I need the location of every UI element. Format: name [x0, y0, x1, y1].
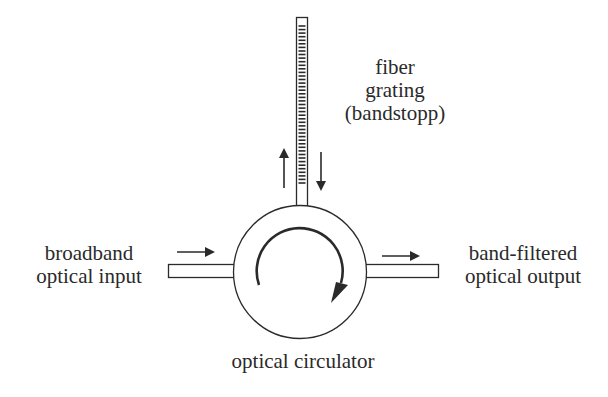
input-label: broadband optical input	[24, 242, 154, 288]
grating-label-line3: (bandstopp)	[335, 102, 455, 125]
output-fiber	[364, 265, 439, 278]
grating-label-line1: fiber	[335, 56, 455, 79]
fiber-grating	[297, 18, 308, 210]
circulator-label: optical circulator	[215, 350, 391, 373]
input-label-line1: broadband	[24, 242, 154, 265]
circulator-label-line1: optical circulator	[215, 350, 391, 373]
output-label-line1: band-filtered	[448, 242, 598, 265]
optical-circulator	[234, 206, 367, 339]
input-label-line2: optical input	[24, 265, 154, 288]
grating-label: fiber grating (bandstopp)	[335, 56, 455, 125]
output-label: band-filtered optical output	[448, 242, 598, 288]
grating-label-line2: grating	[335, 79, 455, 102]
output-label-line2: optical output	[448, 265, 598, 288]
circulator-diagram	[0, 0, 608, 397]
input-fiber	[169, 265, 237, 278]
